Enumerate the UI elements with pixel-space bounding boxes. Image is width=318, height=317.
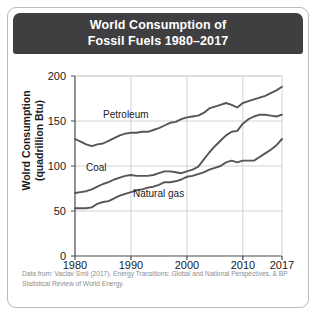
series-label-petroleum: Petroleum (103, 109, 149, 120)
series-label-natural-gas: Natural gas (133, 188, 184, 199)
chart-title-line-1: World Consumption of (13, 17, 303, 33)
source-caption: Data from: Vaclav Smil (2017). Energy Tr… (22, 269, 297, 288)
y-axis-label-line-1: Wolrd Consumption (20, 71, 33, 211)
chart-title-line-2: Fossil Fuels 1980–2017 (13, 33, 303, 49)
y-tick-label-150: 150 (36, 115, 66, 127)
chart-title-bar: World Consumption of Fossil Fuels 1980–2… (13, 13, 303, 54)
y-axis-label-line-2: (quadrillion Btu) (32, 71, 45, 211)
y-tick-label-100: 100 (36, 160, 66, 172)
y-tick-label-50: 50 (36, 205, 66, 217)
y-tick-label-200: 200 (36, 70, 66, 82)
y-axis-label: Wolrd Consumption (quadrillion Btu) (20, 71, 45, 211)
series-label-coal: Coal (86, 162, 107, 173)
chart-figure: World Consumption of Fossil Fuels 1980–2… (7, 7, 309, 308)
